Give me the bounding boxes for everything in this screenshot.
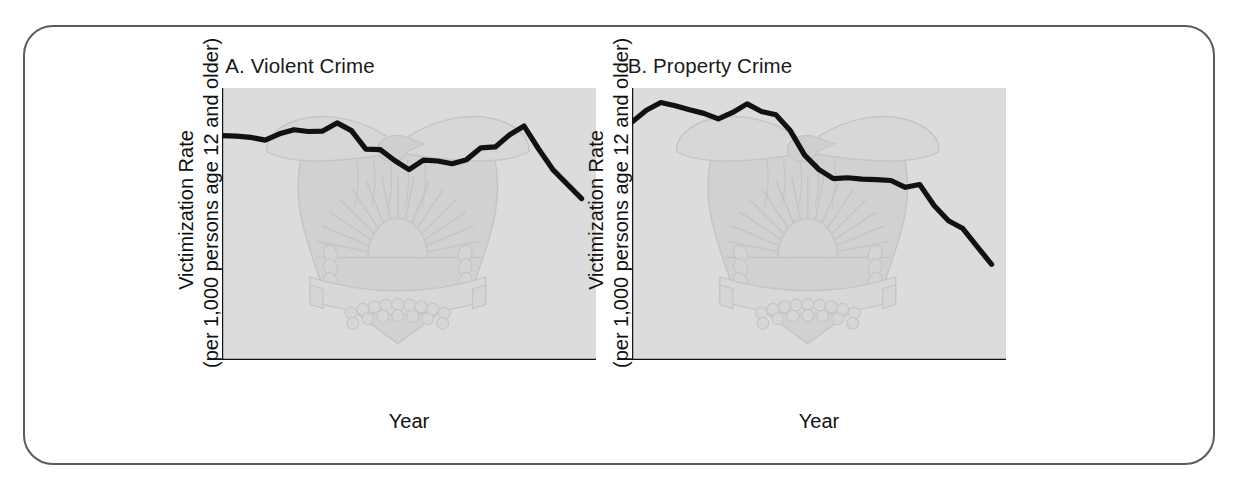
seal-cobblestone (347, 317, 359, 329)
seal-cobblestone (380, 299, 392, 311)
seal-cobblestone (790, 299, 802, 311)
seal-cobblestone (377, 310, 389, 322)
plot-area: 0100200300400500600197319771981198519891… (632, 88, 1006, 360)
seal-cobblestone (779, 301, 791, 313)
seal-cobblestone (392, 309, 404, 321)
seal-banner-tail (883, 285, 896, 309)
seal-cobblestone (847, 317, 859, 329)
y-axis-label-line1: Victimization Rate (585, 65, 608, 355)
y-axis-label-line1: Victimization Rate (175, 65, 198, 355)
seal-cobblestone (772, 313, 784, 325)
seal-cobblestone (802, 309, 814, 321)
chart-svg: 0100200300400500600197319771981198519891… (632, 88, 1006, 360)
seal-cobblestone (813, 299, 825, 311)
x-axis-label: Year (632, 410, 1006, 433)
seal-cobblestone (362, 313, 374, 325)
seal-cobblestone (832, 313, 844, 325)
panel-title: B. Property Crime (470, 54, 950, 78)
seal-banner-tail (720, 285, 733, 309)
seal-cobblestone (757, 317, 769, 329)
seal-banner-tail (310, 285, 323, 309)
seal-cobblestone (787, 310, 799, 322)
panel-property-crime: B. Property Crime Victimization Rate (pe… (410, 0, 1010, 487)
seal-cobblestone (802, 299, 814, 311)
y-axis-label-line2: (per 1,000 persons age 12 and older) (610, 78, 633, 368)
seal-cobblestone (392, 299, 404, 311)
seal-cobblestone (825, 301, 837, 313)
seal-cobblestone (817, 310, 829, 322)
y-axis-label-line2: (per 1,000 persons age 12 and older) (200, 78, 223, 368)
seal-cobblestone (369, 301, 381, 313)
figure-root: A. Violent Crime Victimization Rate (per… (0, 0, 1241, 487)
